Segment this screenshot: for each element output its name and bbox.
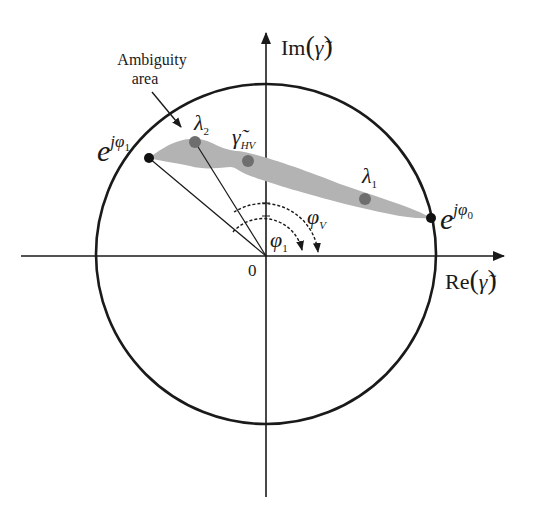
phi1-endpoint	[144, 153, 154, 163]
gamma-hv-label: γ̃HV	[232, 126, 255, 148]
origin-label: 0	[248, 262, 257, 279]
ambiguity-line2: area	[93, 69, 197, 88]
phi0-endpoint	[426, 213, 436, 223]
ambiguity-area-label: Ambiguity area	[107, 50, 197, 88]
lambda2-label: λ2	[194, 112, 209, 134]
im-main: Im	[281, 35, 305, 60]
phi1-angle-label: φ1	[270, 229, 288, 251]
unit-circle-diagram	[0, 0, 536, 519]
ambiguity-line1: Ambiguity	[107, 50, 197, 69]
phi0-point-label: ejφ0	[440, 204, 473, 234]
gamma-hv-dot	[242, 155, 254, 167]
phi1-arc	[233, 219, 302, 250]
re-main: Re	[445, 269, 469, 294]
phiV-angle-label: φV	[307, 206, 326, 228]
lambda2-dot	[189, 136, 201, 148]
lambda1-label: λ1	[362, 165, 377, 187]
coherence-region	[149, 139, 431, 219]
phi1-point-label: ejφ1	[97, 136, 130, 166]
re-axis-label: Re(γ̃)	[445, 266, 497, 294]
lambda1-dot	[359, 193, 371, 205]
im-axis-label: Im(γ̃)	[281, 32, 333, 60]
